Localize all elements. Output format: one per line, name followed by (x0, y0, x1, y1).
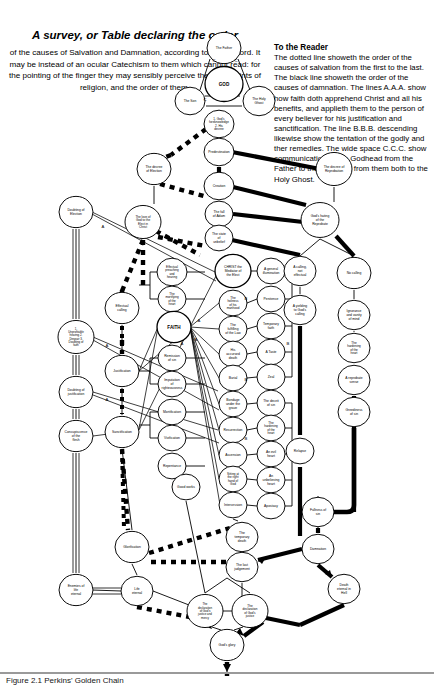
node-label: Intercession (224, 503, 242, 507)
node-harden-heart2[interactable]: Thehardeningof theheart (257, 415, 285, 441)
node-love-elect[interactable]: The love ofGod to theElect inChrist (125, 205, 161, 238)
node-label: The decreeof Election (146, 165, 163, 173)
node-sitting[interactable]: Sitting atthe righthand ofGod (219, 466, 247, 492)
node-evil-heart[interactable]: An evilheart (257, 441, 285, 467)
node-ascension[interactable]: Ascension (219, 442, 247, 468)
node-label: No calling (347, 271, 362, 275)
node-label: Repentance (163, 464, 181, 468)
legend-mark-a: A (102, 224, 105, 229)
node-enemies[interactable]: Enemies oflifeeternal (59, 574, 93, 605)
node-bondage[interactable]: Bondageunder thegrave (219, 391, 247, 417)
node-son[interactable]: The Son (175, 87, 205, 115)
node-label: Zeal (268, 375, 275, 379)
node-burial[interactable]: Burial (219, 365, 247, 391)
node-damnation[interactable]: Damnation (302, 534, 334, 563)
node-vivification[interactable]: Vivification (158, 425, 186, 451)
golden-chain-diagram: The FatherGODThe SonThe HolyGhost1. God'… (0, 0, 434, 685)
node-yielding[interactable]: A yieldingto God'scalling (284, 295, 316, 324)
node-label: Penitence (264, 297, 279, 301)
node-temp-death[interactable]: Thetemporarydeath (226, 522, 258, 551)
node-repro-sense[interactable]: A reprobatesense (338, 365, 370, 394)
node-doubt-election[interactable]: Doubting ofElection (59, 196, 93, 227)
legend-mark-a: A (106, 397, 109, 402)
footer-caption: Figure 2.1 Perkins' Golden Chain (6, 676, 306, 685)
node-life-eternal[interactable]: Lifeeternal (121, 576, 153, 605)
node-faith[interactable]: FAITH (157, 311, 191, 342)
node-decree-repro[interactable]: The decree ofReprobation (316, 152, 352, 185)
node-penitence[interactable]: Penitence (257, 286, 285, 312)
node-illumination[interactable]: A generalillumination (257, 258, 285, 284)
node-label: Damnation (310, 547, 326, 551)
node-hating-repro[interactable]: God's hatingof theReprobate (301, 203, 339, 238)
node-apostasy[interactable]: Apostasy (257, 493, 285, 519)
node-god[interactable]: GOD (205, 67, 243, 102)
node-justification[interactable]: Justification (105, 355, 139, 386)
node-unbelieving[interactable]: Anunbelievingheart (257, 467, 285, 493)
node-label: Resurrection (224, 428, 243, 432)
node-state-unbelief[interactable]: The stateofunbelief (205, 225, 233, 251)
node-label: The fallof Adam (213, 210, 225, 218)
node-no-calling[interactable]: No calling (337, 257, 371, 288)
node-doubt-justif[interactable]: Doubting ofjustification (59, 376, 93, 407)
footer-divider (0, 672, 434, 674)
node-glorification[interactable]: Glorification (115, 531, 149, 562)
node-accursed[interactable]: Hisaccurseddeath (219, 341, 247, 367)
node-concupiscence[interactable]: Concupiscenceof theflesh (59, 420, 93, 451)
node-deceit-sin[interactable]: The deceitof sin (257, 390, 285, 416)
node-label: Justification (113, 369, 131, 373)
node-fulfil-law[interactable]: Thefulfillingof the Law (219, 316, 247, 342)
node-label: Ascension (225, 453, 241, 457)
node-resurrection[interactable]: Resurrection (219, 417, 247, 443)
node-taste[interactable]: A Taste (257, 339, 285, 365)
node-remission[interactable]: Remissionof sin (158, 345, 186, 371)
node-predestination[interactable]: Predestination (204, 138, 234, 166)
node-label: Effectualpreachingandhearing (165, 265, 179, 280)
legend-mark-c: C (212, 58, 215, 63)
node-sanctification[interactable]: Sanctification (105, 416, 139, 447)
node-unprofitable[interactable]: 1.Unprofitablehearing 2.Despair 3.Doubti… (58, 320, 94, 353)
node-mortification[interactable]: Mortification (158, 399, 186, 425)
node-zeal[interactable]: Zeal (257, 364, 285, 390)
node-label: God's glory (219, 643, 236, 647)
node-effectual-call[interactable]: Effectualcalling (105, 292, 139, 323)
node-label: A Taste (266, 350, 277, 354)
node-decl-mercy[interactable]: Thedeclarationof God'sjustice andmercy (187, 594, 223, 627)
node-label: Creation (213, 184, 226, 188)
node-intercession[interactable]: Intercession (219, 492, 247, 518)
node-mortify-heart[interactable]: Themortifyingof theheart (158, 286, 186, 312)
node-holyghost[interactable]: The HolyGhost (243, 86, 275, 115)
node-eff-preach[interactable]: Effectualpreachingandhearing (157, 258, 187, 286)
node-decl-justice[interactable]: Thedeclarationof God'sjustice (232, 594, 268, 627)
node-label: Relapse (294, 449, 306, 453)
node-temp-faith[interactable]: Temporaryfaith (257, 313, 285, 339)
legend-mark-a: A (198, 318, 201, 323)
node-imputation[interactable]: Imputationofrighteousness (158, 371, 186, 397)
node-label: An evilheart (266, 450, 276, 458)
node-holiness[interactable]: Theholinessof hismanhood (219, 290, 247, 316)
node-greediness[interactable]: Greedinessof sin (338, 397, 370, 426)
node-calling-noteff[interactable]: A calling,noteffectual (284, 256, 316, 285)
node-decree-elect[interactable]: The decreeof Election (137, 153, 171, 184)
node-foreknow[interactable]: 1. God'sforeknowledge2. Hisdecree (204, 110, 234, 138)
node-label: GOD (219, 82, 230, 87)
legend-mark-b: B (245, 296, 248, 301)
node-good-works[interactable]: Good works (172, 474, 200, 500)
legend-mark-c: C (234, 58, 237, 63)
legend-mark-b: B (287, 341, 290, 346)
legend-mark-c: C (203, 97, 206, 102)
node-death-hell[interactable]: Deatheternal inHell (328, 574, 360, 603)
node-label: Sanctification (112, 430, 132, 434)
node-christ[interactable]: CHRIST theMediator ofthe Elect (215, 254, 251, 287)
node-harden-heart[interactable]: Thehardeningof theheart (338, 333, 370, 362)
node-creation[interactable]: Creation (204, 172, 234, 200)
node-last-judge[interactable]: The lastjudgement (226, 552, 258, 581)
node-fall-adam[interactable]: The fallof Adam (205, 201, 233, 227)
node-label: Good works (177, 485, 195, 489)
node-fullness[interactable]: Fullness ofsin (302, 497, 334, 526)
node-label: Effectualcalling (116, 304, 129, 312)
tentation-double-rules (73, 229, 121, 594)
node-relapse[interactable]: Relapse (286, 438, 314, 464)
node-label: Vivification (164, 436, 180, 440)
node-ignorance[interactable]: Ignoranceand vanityof mind (338, 300, 370, 329)
node-gods-glory[interactable]: God's glory (210, 629, 244, 660)
